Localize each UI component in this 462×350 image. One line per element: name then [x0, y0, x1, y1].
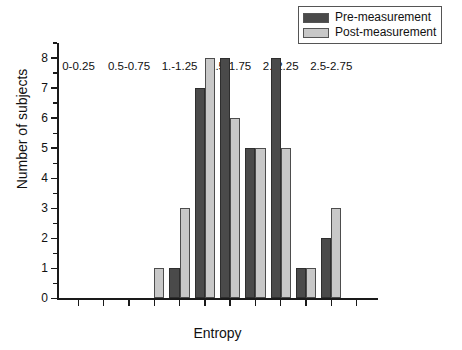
x-tick-7 — [255, 300, 256, 306]
y-tick-minor — [53, 193, 57, 194]
x-tick-label-1: 0.5-0.75 — [108, 60, 150, 72]
y-tick-minor — [53, 283, 57, 284]
legend-item-post-measurement: Post-measurement — [303, 25, 436, 40]
y-tick-label-7: 7 — [41, 81, 48, 95]
x-tick-2 — [128, 300, 129, 306]
y-tick-label-8: 8 — [41, 51, 48, 65]
y-tick-label-1: 1 — [41, 261, 48, 275]
y-tick-minor — [53, 133, 57, 134]
chart-legend: Pre-measurement Post-measurement — [298, 6, 442, 44]
bar-post-9 — [306, 268, 316, 298]
bar-pre-9 — [296, 268, 306, 298]
legend-swatch-post-icon — [303, 28, 329, 38]
legend-label-post: Post-measurement — [335, 26, 436, 39]
x-tick-6 — [229, 300, 230, 306]
legend-item-pre-measurement: Pre-measurement — [303, 10, 436, 25]
y-tick-8 — [51, 57, 57, 58]
x-tick-11 — [356, 300, 357, 306]
x-tick-1 — [103, 300, 104, 306]
x-tick-label-2: 1.-1.25 — [162, 60, 198, 72]
legend-swatch-pre-icon — [303, 13, 329, 23]
x-tick-3 — [154, 300, 155, 306]
x-tick-9 — [305, 300, 306, 306]
y-tick-4 — [51, 178, 57, 179]
x-tick-4 — [179, 300, 180, 306]
x-tick-10 — [331, 300, 332, 306]
y-tick-minor — [53, 42, 57, 43]
x-tick-0 — [78, 300, 79, 306]
bar-post-4 — [180, 208, 190, 298]
y-tick-1 — [51, 268, 57, 269]
bar-post-7 — [255, 148, 265, 298]
bar-pre-6 — [220, 58, 230, 298]
x-tick-label-5: 2.5-2.75 — [310, 60, 352, 72]
x-tick-5 — [204, 300, 205, 306]
y-tick-minor — [53, 253, 57, 254]
y-tick-minor — [53, 223, 57, 224]
legend-label-pre: Pre-measurement — [335, 11, 431, 24]
x-tick-8 — [280, 300, 281, 306]
x-tick-label-4: 2.-2.25 — [263, 60, 299, 72]
y-tick-label-5: 5 — [41, 141, 48, 155]
y-tick-0 — [51, 298, 57, 299]
x-tick-label-3: 1.5-1.75 — [209, 60, 251, 72]
y-tick-3 — [51, 208, 57, 209]
chart-figure: Pre-measurement Post-measurement 0123456… — [0, 0, 462, 350]
plot-area: 012345678 0-0.250.5-0.751.-1.251.5-1.752… — [57, 50, 378, 300]
bar-pre-8 — [271, 58, 281, 298]
bar-post-8 — [281, 148, 291, 298]
y-tick-6 — [51, 117, 57, 118]
y-tick-label-2: 2 — [41, 231, 48, 245]
bar-pre-7 — [245, 148, 255, 298]
y-tick-7 — [51, 87, 57, 88]
y-tick-label-6: 6 — [41, 111, 48, 125]
y-tick-label-0: 0 — [41, 291, 48, 305]
y-tick-label-4: 4 — [41, 171, 48, 185]
bar-post-5 — [205, 58, 215, 298]
bar-post-10 — [331, 208, 341, 298]
y-tick-minor — [53, 102, 57, 103]
bar-pre-10 — [321, 238, 331, 298]
x-tick-label-0: 0-0.25 — [62, 60, 95, 72]
y-tick-minor — [53, 163, 57, 164]
bar-post-3 — [154, 268, 164, 298]
y-tick-5 — [51, 147, 57, 148]
bar-pre-5 — [195, 88, 205, 298]
y-axis-title: Number of subjects — [14, 49, 30, 209]
y-axis-line — [57, 43, 59, 300]
y-tick-label-3: 3 — [41, 201, 48, 215]
y-tick-2 — [51, 238, 57, 239]
y-tick-minor — [53, 72, 57, 73]
bar-post-6 — [230, 118, 240, 298]
bar-pre-4 — [169, 268, 179, 298]
x-axis-title: Entropy — [57, 325, 378, 341]
